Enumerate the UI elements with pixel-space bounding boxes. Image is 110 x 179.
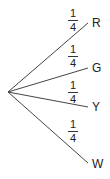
probability-w-denominator: 4: [67, 133, 79, 144]
probability-w-numerator: 1: [67, 119, 79, 130]
outcome-y: Y: [92, 101, 100, 113]
probability-y-numerator: 1: [67, 80, 79, 91]
probability-y: 1 4: [67, 80, 79, 105]
outcome-r: R: [92, 17, 101, 29]
probability-g-denominator: 4: [67, 58, 79, 69]
probability-g-numerator: 1: [67, 44, 79, 55]
probability-r-denominator: 4: [67, 22, 79, 33]
outcome-g: G: [92, 62, 101, 74]
outcome-w: W: [92, 158, 103, 170]
probability-r-numerator: 1: [67, 8, 79, 19]
probability-y-denominator: 4: [67, 94, 79, 105]
probability-g: 1 4: [67, 44, 79, 69]
probability-w: 1 4: [67, 119, 79, 144]
probability-r: 1 4: [67, 8, 79, 33]
